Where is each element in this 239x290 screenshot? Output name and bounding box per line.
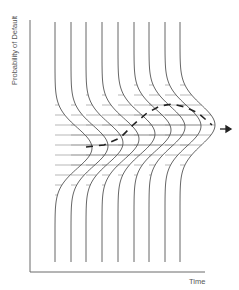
x-axis-label: Time [189, 277, 205, 286]
distribution-curve [86, 22, 123, 262]
distribution-curves [55, 22, 215, 262]
y-axis-label: Probability of Default [10, 15, 24, 85]
distribution-hatching [55, 85, 215, 195]
y-axis-label-text: Probability of Default [10, 16, 19, 85]
diagram-canvas [0, 0, 239, 290]
distribution-curve [165, 22, 201, 262]
axes [30, 20, 205, 272]
trend-arrow-icon [220, 126, 231, 132]
distribution-curve [180, 22, 215, 262]
